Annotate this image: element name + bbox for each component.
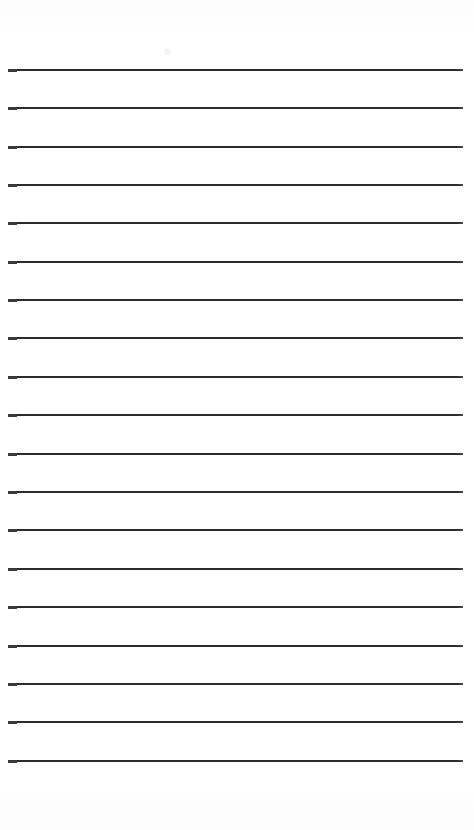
faint-scanner-speck [164, 48, 171, 55]
rule-line [8, 414, 463, 416]
rule-line [8, 491, 463, 493]
rule-line [8, 760, 463, 762]
scanned-page [0, 0, 474, 830]
rule-line [8, 606, 463, 608]
rule-line [8, 261, 463, 263]
rule-line [8, 222, 463, 224]
rule-line [8, 568, 463, 570]
rule-line [8, 376, 463, 378]
rule-line [8, 721, 463, 723]
ruling-lines-layer [0, 0, 474, 830]
rule-line [8, 337, 463, 339]
rule-line [8, 453, 463, 455]
rule-line [8, 645, 463, 647]
rule-line [8, 69, 463, 71]
rule-line [8, 146, 463, 148]
rule-line [8, 529, 463, 531]
rule-line [8, 299, 463, 301]
rule-line [8, 184, 463, 186]
rule-line [8, 107, 463, 109]
rule-line [8, 683, 463, 685]
